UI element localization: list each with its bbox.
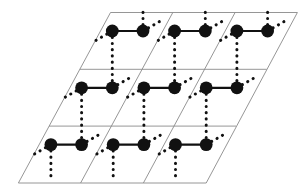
atom [169, 138, 182, 151]
atom [138, 81, 151, 94]
atom [138, 138, 151, 151]
atom [106, 81, 119, 94]
atom [168, 25, 181, 38]
figure-background [0, 0, 305, 191]
atom [199, 25, 212, 38]
atom [137, 25, 150, 38]
atom [200, 138, 213, 151]
atom [200, 81, 213, 94]
atom [45, 138, 58, 151]
atom [75, 81, 88, 94]
lattice-figure [0, 0, 305, 191]
atom [231, 81, 244, 94]
atom [231, 25, 244, 38]
lattice-canvas [0, 0, 305, 191]
atom [106, 25, 119, 38]
atom [75, 138, 88, 151]
atom [168, 81, 181, 94]
atom [107, 138, 120, 151]
atom [261, 25, 274, 38]
